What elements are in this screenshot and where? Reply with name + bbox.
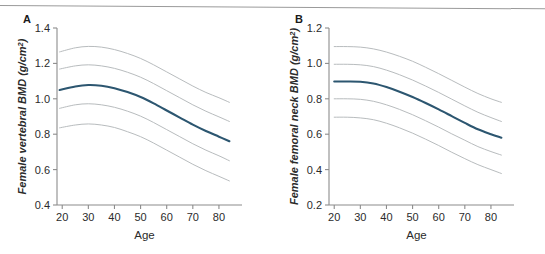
x-tick-label: 80 xyxy=(485,211,497,223)
percentile-curve xyxy=(60,124,230,181)
y-axis-title: Female vertebral BMD (g/cm2) xyxy=(16,38,29,194)
y-tick-label: 0.6 xyxy=(307,128,322,140)
x-tick-label: 70 xyxy=(187,211,199,223)
x-tick-label: 60 xyxy=(433,211,445,223)
y-tick-label: 0.2 xyxy=(307,199,322,211)
y-tick-label: 1.4 xyxy=(35,22,50,34)
median-curve xyxy=(334,81,501,137)
x-tick-label: 30 xyxy=(82,211,94,223)
x-tick-label: 30 xyxy=(354,211,366,223)
y-tick-label: 0.8 xyxy=(307,93,322,105)
x-axis-title: Age xyxy=(134,229,154,241)
x-tick-label: 50 xyxy=(134,211,146,223)
y-tick-label: 1.2 xyxy=(35,57,50,69)
percentile-curve xyxy=(60,46,230,102)
panel-b-plot: 0.20.40.60.81.01.220304050607080AgeFemal… xyxy=(272,0,544,254)
x-tick-label: 20 xyxy=(56,211,68,223)
x-tick-label: 40 xyxy=(380,211,392,223)
percentile-curve xyxy=(60,104,230,161)
y-tick-label: 0.4 xyxy=(35,199,50,211)
y-tick-label: 0.8 xyxy=(35,128,50,140)
panel-b-svg: 0.20.40.60.81.01.220304050607080AgeFemal… xyxy=(272,0,544,254)
x-tick-label: 60 xyxy=(161,211,173,223)
y-tick-label: 1.0 xyxy=(35,93,50,105)
panel-a-plot: 0.40.60.81.01.21.420304050607080AgeFemal… xyxy=(0,0,272,254)
svg-text:Female femoral neck BMD (g/cm2: Female femoral neck BMD (g/cm2) xyxy=(288,28,301,206)
percentile-curve xyxy=(334,47,501,103)
y-axis-title: Female femoral neck BMD (g/cm2) xyxy=(288,28,301,206)
percentile-curve xyxy=(334,99,501,155)
x-tick-label: 50 xyxy=(406,211,418,223)
panel-a: A 0.40.60.81.01.21.420304050607080AgeFem… xyxy=(0,0,272,254)
x-tick-label: 20 xyxy=(328,211,340,223)
median-curve xyxy=(60,85,230,141)
y-tick-label: 0.4 xyxy=(307,164,322,176)
svg-text:Female vertebral BMD (g/cm2): Female vertebral BMD (g/cm2) xyxy=(16,38,29,194)
x-tick-label: 70 xyxy=(459,211,471,223)
y-tick-label: 1.0 xyxy=(307,57,322,69)
percentile-curve xyxy=(334,117,501,173)
x-tick-label: 40 xyxy=(108,211,120,223)
figure-container: A 0.40.60.81.01.21.420304050607080AgeFem… xyxy=(0,0,545,254)
y-tick-label: 1.2 xyxy=(307,22,322,34)
x-axis-title: Age xyxy=(406,229,426,241)
y-tick-label: 0.6 xyxy=(35,164,50,176)
panel-a-svg: 0.40.60.81.01.21.420304050607080AgeFemal… xyxy=(0,0,272,254)
panel-b: B 0.20.40.60.81.01.220304050607080AgeFem… xyxy=(272,0,544,254)
x-tick-label: 80 xyxy=(213,211,225,223)
percentile-curve xyxy=(60,65,230,122)
